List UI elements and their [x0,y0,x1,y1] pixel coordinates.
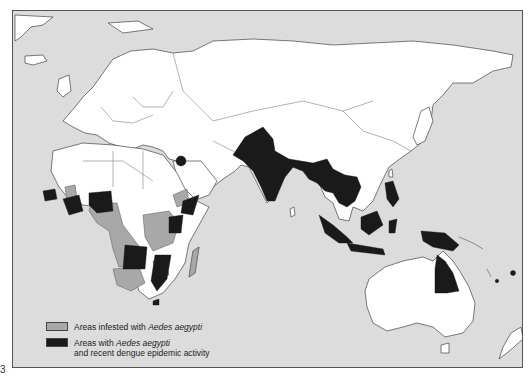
legend-item-epidemic: Areas with Aedes aegypti and recent deng… [46,338,210,358]
epidemic-region [389,219,397,233]
legend-item-infested: Areas infested with Aedes aegypti [46,322,202,332]
epidemic-region [347,243,385,255]
legend-swatch-gray [46,322,68,331]
land-svalbard [108,21,153,33]
legend-swatch-black [46,338,68,347]
land-tasmania [441,343,449,353]
epidemic-region [385,181,399,207]
land-britain [57,75,71,97]
epidemic-region [495,279,499,283]
map-frame [12,10,523,368]
epidemic-region [361,211,383,235]
land-new-zealand [499,327,523,359]
island-chain [459,237,483,249]
epidemic-region [43,189,57,201]
epidemic-region [421,231,459,251]
land-australia [365,251,475,337]
infested-region [189,247,199,277]
land-taiwan [389,169,393,177]
land-sri-lanka [290,207,295,217]
island-chain [487,269,491,277]
land-iceland [25,55,47,65]
epidemic-region [153,299,159,305]
land-greenland [15,15,53,41]
figure-number: 3 [0,364,6,375]
world-map [13,11,523,368]
epidemic-region [123,245,147,269]
island-arcs [459,237,491,277]
legend-label-infested: Areas infested with Aedes aegypti [74,322,202,332]
epidemic-region [169,215,183,233]
epidemic-region [176,156,186,166]
epidemic-region [511,271,516,276]
legend-label-epidemic: Areas with Aedes aegypti and recent deng… [74,338,210,358]
